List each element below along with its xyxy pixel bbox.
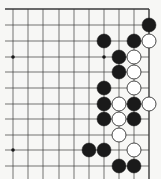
board-grid	[5, 9, 149, 179]
star-point-icon	[11, 55, 15, 59]
black-stone-icon[interactable]	[82, 143, 96, 157]
white-stone-icon[interactable]	[112, 128, 126, 142]
white-stone-icon[interactable]	[127, 81, 141, 95]
white-stone-icon[interactable]	[127, 50, 141, 64]
star-point-icon	[11, 148, 15, 152]
black-stone-icon[interactable]	[127, 97, 141, 111]
white-stone-icon[interactable]	[112, 97, 126, 111]
star-point-icon	[102, 55, 106, 59]
black-stone-icon[interactable]	[127, 34, 141, 48]
white-stone-icon[interactable]	[112, 112, 126, 126]
go-board[interactable]	[0, 0, 161, 179]
black-stone-icon[interactable]	[97, 34, 111, 48]
white-stone-icon[interactable]	[127, 143, 141, 157]
star-points	[11, 55, 106, 152]
black-stone-icon[interactable]	[97, 81, 111, 95]
black-stone-icon[interactable]	[112, 50, 126, 64]
black-stone-icon[interactable]	[112, 159, 126, 173]
black-stone-icon[interactable]	[97, 97, 111, 111]
black-stone-icon[interactable]	[112, 65, 126, 79]
black-stone-icon[interactable]	[97, 112, 111, 126]
black-stone-icon[interactable]	[127, 159, 141, 173]
black-stone-icon[interactable]	[97, 143, 111, 157]
white-stone-icon[interactable]	[142, 34, 156, 48]
black-stone-icon[interactable]	[142, 18, 156, 32]
white-stone-icon[interactable]	[142, 97, 156, 111]
white-stone-icon[interactable]	[127, 65, 141, 79]
black-stone-icon[interactable]	[127, 112, 141, 126]
